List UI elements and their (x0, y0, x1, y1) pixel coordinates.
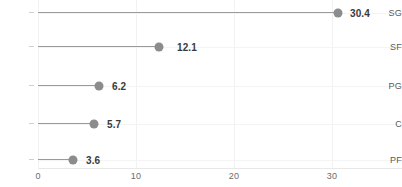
stem-pg (38, 85, 99, 86)
category-tick-sg (29, 12, 34, 13)
lollipop-chart: SG 30.4 SF 12.1 PG 6.2 C 5 (0, 0, 402, 187)
gridline-vertical-0 (38, 0, 39, 168)
value-label-sf: 12.1 (177, 42, 197, 53)
category-tick-sf (29, 46, 34, 47)
data-point-sg[interactable] (334, 9, 343, 18)
x-axis-tick-label-0: 0 (35, 171, 40, 181)
data-point-pf[interactable] (69, 156, 78, 165)
plot-area: SG 30.4 SF 12.1 PG 6.2 C 5 (0, 0, 402, 187)
category-label-pg: PG (376, 81, 402, 91)
data-point-c[interactable] (90, 120, 99, 129)
category-label-c: C (376, 119, 402, 129)
x-axis-tick-label-10: 10 (131, 171, 141, 181)
data-point-pg[interactable] (95, 82, 104, 91)
value-label-c: 5.7 (107, 119, 121, 130)
value-label-pf: 3.6 (86, 155, 100, 166)
stem-sf (38, 46, 159, 47)
data-point-sf[interactable] (155, 43, 164, 52)
x-axis-line (38, 168, 402, 169)
category-label-pf: PF (376, 155, 402, 165)
gridline-vertical-20 (234, 0, 235, 168)
category-label-sg: SG (376, 8, 402, 18)
category-tick-c (29, 123, 34, 124)
x-axis-tick-label-20: 20 (229, 171, 239, 181)
category-tick-pf (29, 159, 34, 160)
stem-c (38, 123, 94, 124)
category-tick-pg (29, 85, 34, 86)
value-label-pg: 6.2 (112, 81, 126, 92)
gridline-vertical-10 (136, 0, 137, 168)
category-label-sf: SF (376, 42, 402, 52)
x-axis-tick-label-30: 30 (327, 171, 337, 181)
value-label-sg: 30.4 (350, 8, 370, 19)
stem-sg (38, 12, 338, 13)
gridline-vertical-30 (332, 0, 333, 168)
